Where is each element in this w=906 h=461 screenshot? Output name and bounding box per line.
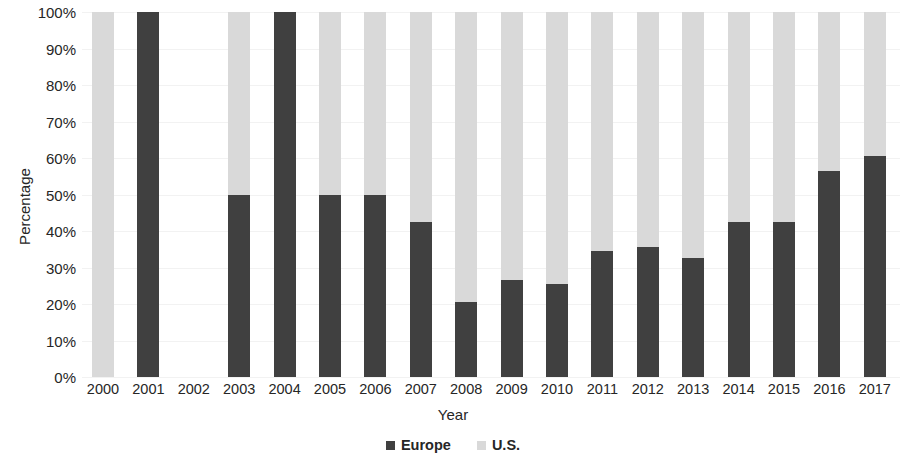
bar-segment-europe[interactable]: [591, 251, 613, 377]
y-axis-tick-label: 90%: [16, 42, 76, 57]
y-axis-tick-label: 40%: [16, 224, 76, 239]
bar-group[interactable]: [364, 12, 386, 377]
y-axis-tick-labels: 0%10%20%30%40%50%60%70%80%90%100%: [10, 0, 76, 461]
bar-group[interactable]: [410, 12, 432, 377]
x-axis-tick-label: 2001: [125, 381, 171, 397]
bar-segment-europe[interactable]: [546, 284, 568, 377]
bar-group[interactable]: [591, 12, 613, 377]
legend-item[interactable]: U.S.: [477, 437, 520, 453]
bar-segment-europe[interactable]: [682, 258, 704, 377]
bar-group[interactable]: [501, 12, 523, 377]
bar-group[interactable]: [319, 12, 341, 377]
bar-segment-europe[interactable]: [864, 156, 886, 377]
x-axis-title: Year: [0, 406, 906, 423]
bar-segment-us[interactable]: [682, 12, 704, 258]
bar-segment-us[interactable]: [591, 12, 613, 251]
bar-group[interactable]: [274, 12, 296, 377]
x-axis-tick-label: 2009: [489, 381, 535, 397]
bar-group[interactable]: [455, 12, 477, 377]
x-axis-tick-label: 2007: [398, 381, 444, 397]
x-axis-tick-label: 2002: [171, 381, 217, 397]
bar-segment-europe[interactable]: [728, 222, 750, 377]
stacked-bar-chart: Percentage 0%10%20%30%40%50%60%70%80%90%…: [0, 0, 906, 461]
bar-segment-europe[interactable]: [501, 280, 523, 377]
bar-group[interactable]: [728, 12, 750, 377]
bar-segment-us[interactable]: [773, 12, 795, 222]
legend-label: U.S.: [492, 437, 520, 453]
bar-segment-us[interactable]: [637, 12, 659, 247]
bar-segment-us[interactable]: [92, 12, 114, 377]
bar-segment-us[interactable]: [410, 12, 432, 222]
bar-segment-europe[interactable]: [319, 195, 341, 378]
bar-segment-us[interactable]: [455, 12, 477, 302]
x-axis-tick-label: 2015: [761, 381, 807, 397]
bar-segment-us[interactable]: [501, 12, 523, 280]
bar-segment-us[interactable]: [319, 12, 341, 195]
bar-group[interactable]: [818, 12, 840, 377]
bar-segment-europe[interactable]: [773, 222, 795, 377]
x-axis-tick-label: 2014: [716, 381, 762, 397]
bar-segment-europe[interactable]: [637, 247, 659, 377]
bar-group[interactable]: [773, 12, 795, 377]
x-axis-tick-label: 2016: [806, 381, 852, 397]
bar-group[interactable]: [92, 12, 114, 377]
y-axis-tick-label: 20%: [16, 297, 76, 312]
x-axis-tick-label: 2011: [579, 381, 625, 397]
bar-segment-us[interactable]: [546, 12, 568, 284]
bar-group[interactable]: [682, 12, 704, 377]
bar-group[interactable]: [546, 12, 568, 377]
y-axis-tick-label: 60%: [16, 151, 76, 166]
bar-group[interactable]: [637, 12, 659, 377]
bar-segment-europe[interactable]: [228, 195, 250, 378]
y-axis-tick-label: 70%: [16, 115, 76, 130]
bar-segment-us[interactable]: [818, 12, 840, 171]
y-axis-tick-label: 80%: [16, 78, 76, 93]
bar-segment-europe[interactable]: [818, 171, 840, 377]
legend-label: Europe: [401, 437, 451, 453]
bar-segment-us[interactable]: [864, 12, 886, 156]
chart-legend: EuropeU.S.: [0, 437, 906, 453]
plot-area: [82, 12, 900, 377]
bar-segment-europe[interactable]: [274, 12, 296, 377]
bar-segment-us[interactable]: [228, 12, 250, 195]
bar-segment-europe[interactable]: [364, 195, 386, 378]
y-axis-tick-label: 30%: [16, 261, 76, 276]
gridline: [82, 377, 900, 378]
legend-swatch-europe: [386, 441, 395, 450]
x-axis-tick-label: 2005: [307, 381, 353, 397]
bar-segment-us[interactable]: [728, 12, 750, 222]
x-axis-tick-label: 2017: [852, 381, 898, 397]
x-axis-tick-label: 2013: [670, 381, 716, 397]
x-axis-tick-label: 2012: [625, 381, 671, 397]
legend-item[interactable]: Europe: [386, 437, 451, 453]
x-axis-tick-label: 2000: [80, 381, 126, 397]
x-axis-tick-label: 2003: [216, 381, 262, 397]
x-axis-tick-label: 2006: [352, 381, 398, 397]
bar-segment-us[interactable]: [364, 12, 386, 195]
bar-segment-europe[interactable]: [410, 222, 432, 377]
y-axis-tick-label: 100%: [16, 5, 76, 20]
x-axis-tick-label: 2004: [262, 381, 308, 397]
bar-group[interactable]: [864, 12, 886, 377]
x-axis-tick-label: 2008: [443, 381, 489, 397]
y-axis-tick-label: 50%: [16, 188, 76, 203]
bar-segment-europe[interactable]: [455, 302, 477, 377]
y-axis-tick-label: 0%: [16, 370, 76, 385]
legend-swatch-us: [477, 441, 486, 450]
bar-group[interactable]: [228, 12, 250, 377]
y-axis-tick-label: 10%: [16, 334, 76, 349]
x-axis-tick-label: 2010: [534, 381, 580, 397]
bar-group[interactable]: [137, 12, 159, 377]
bar-segment-europe[interactable]: [137, 12, 159, 377]
